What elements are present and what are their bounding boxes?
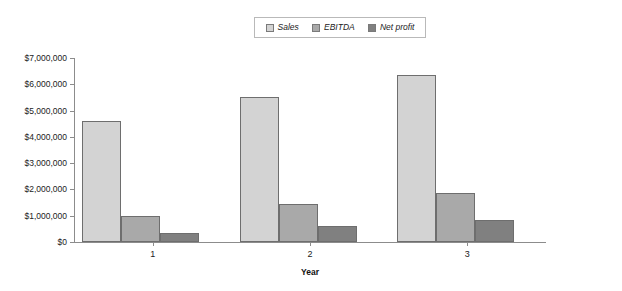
chart-legend: Sales EBITDA Net profit bbox=[254, 17, 426, 38]
bar-net-profit-year-2 bbox=[318, 226, 357, 242]
legend-label-sales: Sales bbox=[278, 23, 299, 32]
legend-label-net-profit: Net profit bbox=[380, 23, 415, 32]
x-axis-tick-label: 1 bbox=[150, 250, 155, 259]
bar-ebitda-year-1 bbox=[121, 216, 160, 242]
y-axis-tick bbox=[70, 137, 74, 138]
x-axis-tick-label: 3 bbox=[465, 250, 470, 259]
y-axis-tick bbox=[70, 58, 74, 59]
legend-entry-sales: Sales bbox=[266, 23, 299, 32]
x-axis-title: Year bbox=[74, 268, 546, 277]
y-axis-tick bbox=[70, 189, 74, 190]
bar-sales-year-3 bbox=[397, 75, 436, 242]
bar-sales-year-1 bbox=[82, 121, 121, 242]
y-axis-tick-label: $1,000,000 bbox=[24, 211, 67, 220]
bar-sales-year-2 bbox=[240, 97, 279, 242]
legend-label-ebitda: EBITDA bbox=[324, 23, 355, 32]
y-axis-tick bbox=[70, 163, 74, 164]
y-axis-tick-label: $6,000,000 bbox=[24, 80, 67, 89]
x-axis-tick bbox=[310, 242, 311, 246]
y-axis-line bbox=[74, 58, 75, 242]
bar-net-profit-year-3 bbox=[475, 220, 514, 242]
bar-net-profit-year-1 bbox=[160, 233, 199, 242]
bar-ebitda-year-3 bbox=[436, 193, 475, 242]
y-axis-tick bbox=[70, 216, 74, 217]
legend-swatch-ebitda bbox=[312, 24, 320, 32]
x-axis-tick bbox=[153, 242, 154, 246]
y-axis-tick bbox=[70, 111, 74, 112]
y-axis-tick-label: $5,000,000 bbox=[24, 106, 67, 115]
x-axis-tick-label: 2 bbox=[307, 250, 312, 259]
legend-swatch-sales bbox=[266, 24, 274, 32]
x-axis-tick bbox=[467, 242, 468, 246]
bar-chart: Sales EBITDA Net profit $0$1,000,000$2,0… bbox=[0, 0, 622, 291]
y-axis-tick-label: $4,000,000 bbox=[24, 133, 67, 142]
y-axis-tick bbox=[70, 242, 74, 243]
y-axis-tick-label: $3,000,000 bbox=[24, 159, 67, 168]
bar-ebitda-year-2 bbox=[279, 204, 318, 242]
plot-area: $0$1,000,000$2,000,000$3,000,000$4,000,0… bbox=[74, 58, 546, 242]
legend-swatch-net-profit bbox=[368, 24, 376, 32]
y-axis-tick-label: $7,000,000 bbox=[24, 54, 67, 63]
y-axis-tick-label: $2,000,000 bbox=[24, 185, 67, 194]
legend-entry-ebitda: EBITDA bbox=[312, 23, 355, 32]
legend-entry-net-profit: Net profit bbox=[368, 23, 415, 32]
y-axis-tick-label: $0 bbox=[58, 238, 67, 247]
y-axis-tick bbox=[70, 84, 74, 85]
